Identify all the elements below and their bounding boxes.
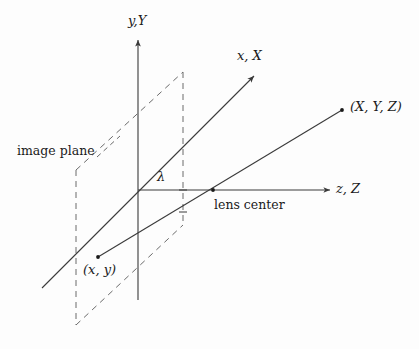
x-axis-label: x, X xyxy=(237,49,262,62)
diagram-canvas xyxy=(0,0,419,349)
projection-diagram: y,Y x, X z, Z (X, Y, Z) (x, y) λ image p… xyxy=(0,0,419,349)
world-point-label: (X, Y, Z) xyxy=(350,100,402,113)
image-plane-leader-line xyxy=(97,136,120,157)
focal-length-label: λ xyxy=(157,170,165,183)
projection-ray-line xyxy=(98,110,342,257)
z-axis-label: z, Z xyxy=(336,182,360,195)
lens-center-point xyxy=(211,188,215,192)
y-axis-label: y,Y xyxy=(128,14,146,27)
lens-center-label: lens center xyxy=(214,199,285,212)
image-point-marker xyxy=(96,255,100,259)
image-plane-outline xyxy=(76,72,183,325)
image-point-label: (x, y) xyxy=(83,263,116,276)
world-point-marker xyxy=(340,108,344,112)
image-plane-label: image plane xyxy=(17,145,95,158)
